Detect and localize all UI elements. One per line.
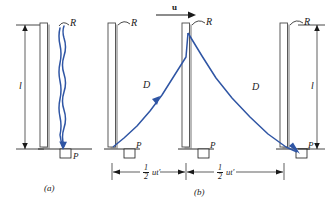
label-panel-b-detector-mid-P: P	[210, 140, 216, 150]
panel-a-beam-downward	[59, 28, 62, 145]
label-panel-b-detector-right-P: P	[308, 140, 314, 150]
panel-b-dimension-arrow-top	[314, 25, 320, 31]
panel-b-beam-down-leg	[188, 33, 286, 147]
distance-left-denominator: 2	[143, 172, 149, 181]
panel-b-dimension-arrow-bottom	[314, 143, 320, 149]
panel-b-r-leader-right	[290, 21, 303, 25]
panel-a-mirror	[40, 23, 48, 147]
label-panel-a-height-l: l	[19, 80, 22, 91]
panel-a-detector-box	[60, 149, 71, 158]
panel-b-mirror-mid	[182, 23, 190, 147]
measure-arrow-right-start	[187, 169, 194, 174]
panel-a-dimension-arrow-bottom	[22, 143, 28, 149]
label-diagonal-left-D: D	[143, 79, 150, 90]
panel-b-r-leader-mid	[192, 21, 205, 25]
measure-arrow-right-end	[276, 169, 283, 174]
distance-left-ut-label: ut′	[152, 167, 160, 177]
distance-left-fraction: 1 2	[143, 164, 149, 181]
panel-b	[104, 11, 325, 180]
panel-a-beam-upward	[63, 26, 66, 146]
panel-b-detector-left	[124, 149, 135, 158]
label-velocity-u: u	[172, 2, 177, 12]
label-panel-a-mirror-top-R: R	[70, 17, 76, 28]
panel-b-mirror-left	[108, 23, 116, 147]
distance-right-numerator: 1	[217, 164, 223, 172]
distance-right-fraction: 1 2	[217, 164, 223, 181]
physics-figure: R l P (a) u R R R P P P D D l 1 2 ut′ 1 …	[0, 0, 331, 209]
label-panel-b-detector-left-P: P	[136, 140, 142, 150]
caption-panel-b: (b)	[194, 187, 205, 197]
label-diagonal-right-D: D	[252, 81, 259, 92]
panel-b-r-leader-left	[118, 22, 130, 25]
panel-a-dimension-arrow-top	[22, 25, 28, 31]
caption-panel-a: (a)	[44, 183, 55, 193]
velocity-arrow-head	[188, 11, 196, 18]
distance-left-numerator: 1	[143, 164, 149, 172]
panel-b-beam-up-leg	[113, 33, 188, 147]
panel-b-mirror-right	[280, 23, 288, 147]
panel-a	[16, 23, 92, 158]
label-panel-b-mirror-left-R: R	[131, 17, 137, 28]
panel-b-beam-down-arrowhead	[289, 143, 300, 155]
measure-arrow-left-end	[178, 169, 185, 174]
label-panel-a-detector-P: P	[73, 151, 79, 161]
measure-arrow-left-start	[113, 169, 120, 174]
figure-svg	[0, 0, 331, 209]
distance-right-denominator: 2	[217, 172, 223, 181]
label-panel-b-mirror-mid-R: R	[206, 16, 212, 27]
panel-b-detector-mid	[198, 149, 209, 158]
distance-right-ut-label: ut′	[226, 167, 234, 177]
label-panel-b-height-l: l	[311, 80, 314, 91]
label-panel-b-mirror-right-R: R	[304, 16, 310, 27]
